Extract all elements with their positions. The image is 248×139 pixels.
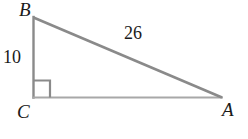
vertex-label-b: B bbox=[19, 0, 31, 19]
side-length-label-bc: 10 bbox=[3, 48, 21, 66]
vertex-label-a: A bbox=[222, 100, 234, 119]
right-angle-marker bbox=[34, 81, 51, 98]
triangle-diagram: B C A 10 26 bbox=[0, 0, 248, 139]
vertex-label-c: C bbox=[17, 102, 30, 121]
triangle-figure bbox=[0, 0, 248, 139]
side-length-label-ba: 26 bbox=[124, 24, 142, 42]
